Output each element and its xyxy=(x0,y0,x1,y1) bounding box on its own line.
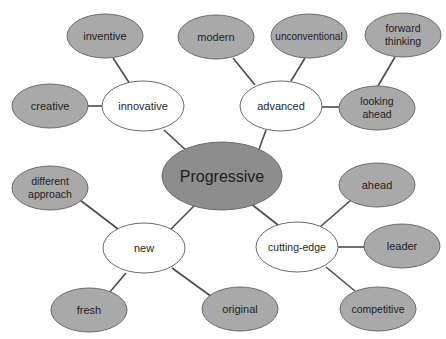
node-fresh: fresh xyxy=(51,288,127,332)
node-different-approach: different approach xyxy=(12,166,88,210)
edge-progressive-new xyxy=(170,203,197,230)
edge-new-different-approach xyxy=(80,200,118,229)
node-creative-label: creative xyxy=(31,100,70,112)
node-ahead-label: ahead xyxy=(362,179,393,191)
node-forward-thinking: forward thinking xyxy=(365,13,441,57)
word-map-diagram: Progressive innovative inventive creativ… xyxy=(0,0,446,339)
node-leader: leader xyxy=(364,224,440,268)
node-competitive: competitive xyxy=(340,287,416,331)
node-unconventional: unconventional xyxy=(271,14,347,58)
node-innovative-label: innovative xyxy=(118,100,168,112)
edge-progressive-cutting-edge xyxy=(250,203,278,225)
node-cutting-edge-label: cutting-edge xyxy=(268,241,326,253)
node-modern: modern xyxy=(178,15,254,59)
edge-progressive-advanced xyxy=(258,130,266,152)
edge-new-fresh xyxy=(109,273,126,293)
node-creative: creative xyxy=(12,84,88,128)
edge-looking-ahead-forward-thinking xyxy=(378,57,395,86)
node-innovative: innovative xyxy=(102,81,184,131)
node-original-label: original xyxy=(222,303,257,315)
edge-advanced-unconventional xyxy=(291,58,305,81)
edge-cutting-edge-competitive xyxy=(326,267,355,291)
node-original: original xyxy=(202,287,278,331)
node-looking-ahead: looking ahead xyxy=(339,86,415,130)
node-competitive-label: competitive xyxy=(351,303,404,315)
node-different-approach-label-2: approach xyxy=(28,188,72,200)
edge-progressive-innovative xyxy=(164,130,188,152)
node-new: new xyxy=(103,223,185,273)
edge-innovative-inventive xyxy=(113,58,130,84)
node-modern-label: modern xyxy=(197,31,234,43)
node-unconventional-label: unconventional xyxy=(275,31,342,42)
node-advanced: advanced xyxy=(240,81,322,131)
node-progressive-label: Progressive xyxy=(180,168,265,185)
node-inventive-label: inventive xyxy=(83,30,126,42)
edge-cutting-edge-ahead xyxy=(320,200,351,227)
node-fresh-label: fresh xyxy=(77,304,101,316)
node-looking-ahead-label-2: ahead xyxy=(362,108,391,120)
node-progressive: Progressive xyxy=(162,142,282,210)
node-ahead: ahead xyxy=(339,163,415,207)
node-advanced-label: advanced xyxy=(257,100,305,112)
node-cutting-edge: cutting-edge xyxy=(256,222,338,272)
edge-new-original xyxy=(172,268,212,297)
node-forward-thinking-label-2: thinking xyxy=(385,35,421,47)
node-leader-label: leader xyxy=(387,240,418,252)
node-forward-thinking-label-1: forward xyxy=(385,22,420,34)
node-looking-ahead-label-1: looking xyxy=(360,95,393,107)
edge-advanced-modern xyxy=(233,58,255,85)
node-different-approach-label-1: different xyxy=(31,175,69,187)
node-new-label: new xyxy=(134,242,154,254)
node-inventive: inventive xyxy=(67,14,143,58)
